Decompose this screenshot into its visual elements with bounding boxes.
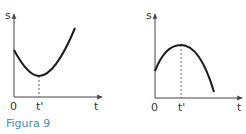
right-origin-label: 0 xyxy=(151,101,158,114)
figure-caption: Figura 9 xyxy=(6,117,50,130)
left-curve xyxy=(14,28,75,76)
left-x-label: t xyxy=(94,100,99,113)
right-graph: s 0 t' t xyxy=(146,9,242,114)
left-origin-label: 0 xyxy=(10,100,17,113)
right-y-label: s xyxy=(146,9,152,22)
right-tick-label: t' xyxy=(178,101,185,114)
left-y-label: s xyxy=(5,9,11,22)
left-tick-label: t' xyxy=(36,100,43,113)
right-x-label: t xyxy=(237,101,242,114)
right-curve xyxy=(155,45,214,92)
figure: s 0 t' t s 0 t' t xyxy=(0,0,246,134)
left-graph: s 0 t' t xyxy=(5,9,102,113)
